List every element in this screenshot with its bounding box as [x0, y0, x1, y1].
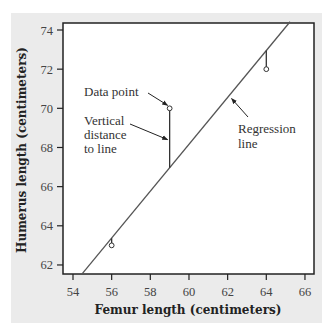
x-tick-label: 58 — [144, 285, 157, 299]
x-axis-title: Femur length (centimeters) — [95, 303, 282, 317]
y-tick-label: 66 — [41, 180, 54, 194]
y-axis-title: Humerus length (centimeters) — [15, 47, 29, 253]
x-tick-label: 66 — [299, 285, 312, 299]
annotation-data-point: Data point — [84, 84, 139, 99]
x-tick-label: 62 — [221, 285, 234, 299]
y-tick-label: 70 — [41, 102, 54, 116]
x-tick-label: 64 — [260, 285, 273, 299]
y-tick-label: 68 — [41, 141, 54, 155]
scatter-chart: 54565860626466 62646668707274 Femur leng… — [0, 0, 334, 331]
y-tick-label: 64 — [41, 219, 54, 233]
y-tick-label: 72 — [41, 63, 54, 77]
x-tick-label: 56 — [105, 285, 118, 299]
data-point — [264, 67, 269, 72]
data-point — [109, 243, 114, 248]
y-tick-label: 62 — [41, 258, 54, 272]
data-point — [167, 106, 172, 111]
y-tick-label: 74 — [41, 24, 54, 38]
x-tick-label: 54 — [67, 285, 80, 299]
x-tick-label: 60 — [183, 285, 196, 299]
